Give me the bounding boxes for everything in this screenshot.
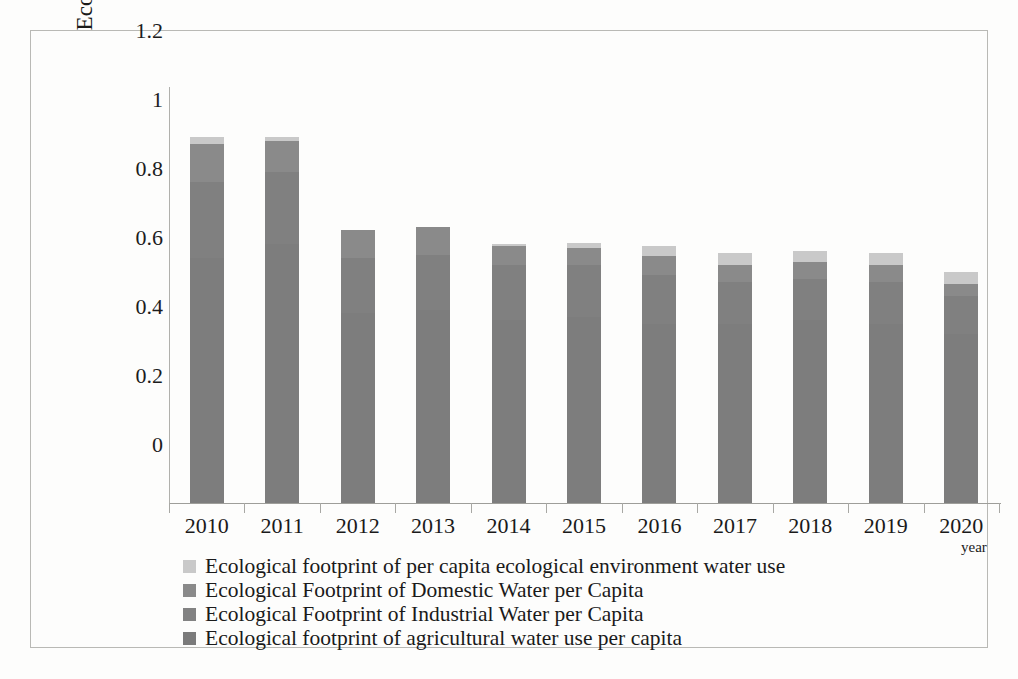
bar-2015[interactable] [567, 243, 601, 503]
bar-2020[interactable] [944, 272, 978, 503]
x-axis-tick-label-2017: 2017 [713, 515, 757, 537]
bar-segment [416, 310, 450, 503]
y-axis-tick-labels: 00.20.40.60.811.2 [71, 31, 163, 445]
x-axis-tick-label-2016: 2016 [637, 515, 681, 537]
bar-segment [492, 265, 526, 320]
legend-item-2[interactable]: Ecological Footprint of Industrial Water… [183, 603, 973, 626]
legend-item-label: Ecological Footprint of Domestic Water p… [205, 579, 644, 602]
bar-group [169, 89, 999, 503]
legend-swatch-icon [183, 632, 196, 645]
x-axis-line [169, 503, 1001, 504]
bar-segment [265, 172, 299, 244]
legend-item-1[interactable]: Ecological Footprint of Domestic Water p… [183, 579, 973, 602]
x-axis-tick-mark [848, 503, 849, 513]
x-axis-tick-mark [697, 503, 698, 513]
bar-segment [718, 253, 752, 265]
legend-swatch-icon [183, 584, 196, 597]
x-axis-tick-label-2015: 2015 [562, 515, 606, 537]
bar-segment [265, 244, 299, 503]
bar-segment [567, 248, 601, 265]
bar-segment [793, 320, 827, 503]
y-axis-tick-label: 0.8 [77, 158, 163, 180]
bar-segment [642, 324, 676, 503]
bar-segment [567, 317, 601, 503]
x-axis-unit-label: year [961, 540, 987, 555]
bar-segment [265, 141, 299, 172]
bar-segment [793, 251, 827, 261]
bar-2014[interactable] [492, 244, 526, 503]
y-axis-tick-label: 1 [77, 89, 163, 111]
chart-legend: Ecological footprint of per capita ecolo… [183, 555, 973, 651]
bar-segment [869, 324, 903, 503]
x-axis-tick-mark [320, 503, 321, 513]
x-axis-tick-mark [999, 503, 1000, 513]
x-axis-tick-label-2010: 2010 [185, 515, 229, 537]
bar-segment [718, 282, 752, 323]
x-axis-tick-label-2013: 2013 [411, 515, 455, 537]
x-axis-tick-label-2014: 2014 [487, 515, 531, 537]
legend-item-label: Ecological Footprint of Industrial Water… [205, 603, 644, 626]
bar-segment [341, 313, 375, 503]
x-axis-tick-label-2019: 2019 [864, 515, 908, 537]
y-axis-tick-label: 0.6 [77, 227, 163, 249]
bar-segment [416, 227, 450, 255]
bar-segment [642, 256, 676, 275]
x-axis-tick-mark [924, 503, 925, 513]
bar-segment [869, 265, 903, 282]
y-axis-tick-label: 1.2 [77, 20, 163, 42]
bar-2010[interactable] [190, 137, 224, 503]
x-axis-tick-mark [471, 503, 472, 513]
bar-segment [869, 253, 903, 265]
x-axis-tick-mark [622, 503, 623, 513]
legend-swatch-icon [183, 608, 196, 621]
x-axis-tick-mark [169, 503, 170, 513]
bar-2019[interactable] [869, 253, 903, 503]
bar-2013[interactable] [416, 227, 450, 503]
bar-2012[interactable] [341, 230, 375, 503]
plot-area [169, 89, 999, 503]
bar-segment [793, 262, 827, 279]
bar-segment [190, 182, 224, 258]
bar-segment [718, 265, 752, 282]
bar-2011[interactable] [265, 137, 299, 503]
bar-segment [642, 275, 676, 323]
bar-segment [944, 334, 978, 503]
x-axis-tick-label-2020: 2020 [939, 515, 983, 537]
bar-segment [190, 258, 224, 503]
bar-2016[interactable] [642, 246, 676, 503]
x-axis-tick-mark [546, 503, 547, 513]
bar-segment [567, 265, 601, 317]
x-axis-tick-label-2012: 2012 [336, 515, 380, 537]
bar-segment [642, 246, 676, 256]
legend-item-3[interactable]: Ecological footprint of agricultural wat… [183, 627, 973, 650]
x-axis-tick-mark [395, 503, 396, 513]
bar-segment [341, 230, 375, 258]
bar-segment [190, 137, 224, 144]
y-axis-tick-label: 0 [77, 434, 163, 456]
bar-segment [718, 324, 752, 503]
bar-segment [341, 258, 375, 313]
bar-segment [416, 255, 450, 310]
y-axis-tick-label: 0.2 [77, 365, 163, 387]
x-axis-tick-mark [244, 503, 245, 513]
x-axis-tick-mark [773, 503, 774, 513]
bar-segment [944, 296, 978, 334]
legend-item-label: Ecological footprint of agricultural wat… [205, 627, 682, 650]
legend-swatch-icon [183, 560, 196, 573]
legend-item-label: Ecological footprint of per capita ecolo… [205, 555, 785, 578]
x-axis-tick-label-2011: 2011 [261, 515, 304, 537]
bar-segment [492, 246, 526, 265]
y-axis-tick-label: 0.4 [77, 296, 163, 318]
figure-panel: Ecological footprint of water resources … [30, 30, 988, 648]
bar-2017[interactable] [718, 253, 752, 503]
bar-segment [944, 284, 978, 296]
bar-segment [793, 279, 827, 320]
x-axis-tick-labels: 2010201120122013201420152016201720182019… [169, 515, 1001, 545]
bar-segment [869, 282, 903, 323]
bar-segment [190, 144, 224, 182]
bar-2018[interactable] [793, 251, 827, 503]
x-axis-tick-label-2018: 2018 [788, 515, 832, 537]
legend-item-0[interactable]: Ecological footprint of per capita ecolo… [183, 555, 973, 578]
bar-segment [944, 272, 978, 284]
bar-segment [492, 320, 526, 503]
